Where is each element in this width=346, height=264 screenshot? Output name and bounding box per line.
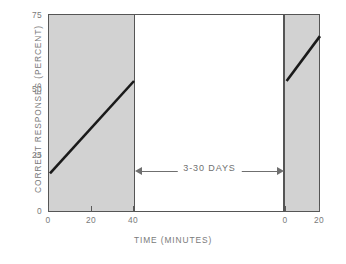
x-tick-label-left-40: 40 <box>121 215 145 225</box>
arrow-right-icon <box>277 167 284 175</box>
x-tick-label-right-20: 20 <box>307 215 331 225</box>
x-tick-mark-right-0 <box>285 206 286 212</box>
retention-interval-annotation: 3-30 DAYS <box>135 164 284 178</box>
x-tick-mark-left-0 <box>48 206 49 212</box>
y-axis-title: CORRECT RESPONSES (PERCENT) <box>33 9 43 209</box>
x-tick-label-right-0: 0 <box>273 215 297 225</box>
x-tick-mark-left-40 <box>133 206 134 212</box>
series-retention-line <box>287 36 320 81</box>
arrow-left-icon <box>135 167 142 175</box>
data-lines <box>49 15 321 213</box>
x-axis-title: TIME (MINUTES) <box>0 235 346 245</box>
x-tick-mark-right-20 <box>319 206 320 212</box>
x-tick-mark-left-20 <box>91 206 92 212</box>
y-tick-label-75: 75 <box>16 10 42 20</box>
series-acquisition-line <box>50 81 134 173</box>
chart-figure: CORRECT RESPONSES (PERCENT) 75 50 25 0 3… <box>0 0 346 264</box>
plot-area: 3-30 DAYS <box>48 14 320 212</box>
x-tick-label-left-20: 20 <box>79 215 103 225</box>
interval-label: 3-30 DAYS <box>177 163 241 173</box>
y-tick-label-50: 50 <box>16 84 42 94</box>
y-tick-label-25: 25 <box>16 150 42 160</box>
x-tick-label-left-0: 0 <box>36 215 60 225</box>
